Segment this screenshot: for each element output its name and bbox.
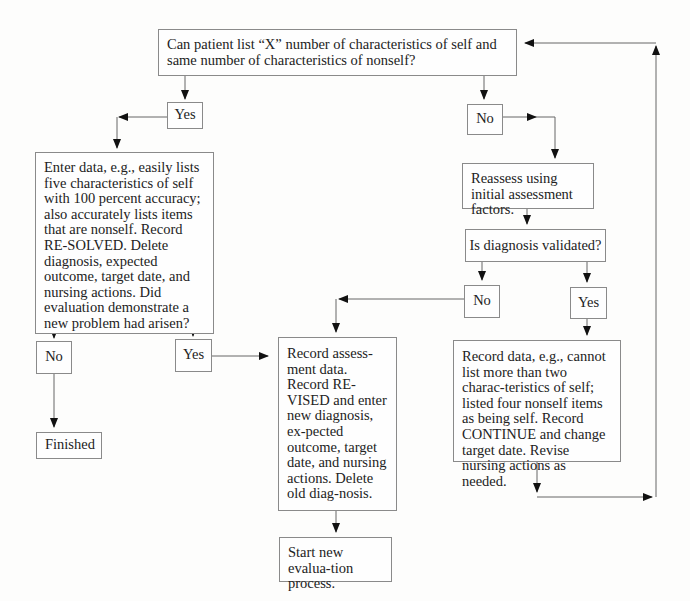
question-box-characteristics: Can patient list “X” number of character…: [158, 29, 517, 76]
no-label: No: [473, 292, 491, 308]
no-label-box-1: No: [467, 104, 503, 135]
no-label: No: [45, 348, 63, 364]
finished-box: Finished: [36, 432, 102, 459]
no-label-box-2: No: [464, 285, 500, 318]
yes-label: Yes: [578, 294, 599, 310]
reassess-text: Reassess using initial assessment factor…: [471, 170, 573, 217]
yes-label-box-1: Yes: [167, 102, 203, 129]
yes-label: Yes: [183, 346, 204, 362]
enter-data-box: Enter data, e.g., easily lists five char…: [35, 152, 214, 334]
validated-question-box: Is diagnosis validated?: [465, 229, 606, 262]
record-data-text: Record data, e.g., cannot list more than…: [462, 348, 606, 489]
finished-text: Finished: [45, 436, 95, 452]
yes-label: Yes: [174, 106, 195, 122]
record-assessment-box: Record assess-ment data. Record RE-VISED…: [278, 337, 397, 511]
record-assessment-text: Record assess-ment data. Record RE-VISED…: [287, 345, 387, 501]
yes-label-box-2: Yes: [570, 287, 607, 319]
question-text: Can patient list “X” number of character…: [167, 36, 497, 68]
enter-data-text: Enter data, e.g., easily lists five char…: [44, 159, 201, 331]
flowchart-canvas: Can patient list “X” number of character…: [0, 0, 690, 601]
validated-question-text: Is diagnosis validated?: [469, 237, 601, 253]
start-new-evaluation-box: Start new evalua-tion process.: [279, 537, 392, 582]
no-label-box-3: No: [36, 341, 72, 374]
start-new-evaluation-text: Start new evalua-tion process.: [288, 544, 353, 591]
no-label: No: [476, 110, 494, 126]
record-data-box: Record data, e.g., cannot list more than…: [453, 340, 621, 462]
reassess-box: Reassess using initial assessment factor…: [462, 163, 594, 209]
yes-label-box-3: Yes: [175, 339, 212, 372]
